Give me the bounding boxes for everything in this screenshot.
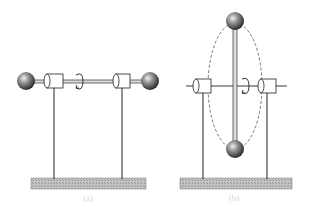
bearing-left-b bbox=[193, 79, 211, 93]
panel-b bbox=[180, 12, 292, 189]
panel-label-a: (a) bbox=[73, 193, 103, 203]
sphere-left-a bbox=[17, 72, 35, 90]
sphere-right-a bbox=[141, 72, 159, 90]
diagram-canvas bbox=[0, 0, 309, 207]
bearing-right-a bbox=[113, 74, 130, 88]
sphere-bottom-b bbox=[226, 140, 244, 158]
panel-label-b: (b) bbox=[219, 193, 249, 203]
rod-b bbox=[233, 22, 237, 146]
panel-a bbox=[17, 72, 159, 189]
sphere-top-b bbox=[226, 12, 244, 30]
bearing-right-b bbox=[258, 79, 276, 93]
ground-base-a bbox=[31, 178, 146, 189]
ground-base-b bbox=[180, 178, 292, 189]
bearing-left-a bbox=[44, 74, 63, 88]
